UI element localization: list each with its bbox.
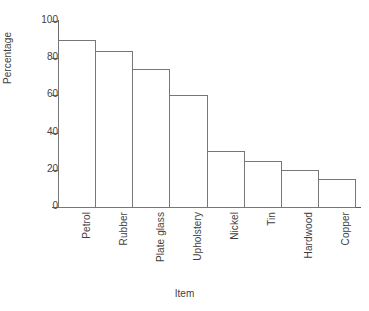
y-axis-tick-label-wrap: 60 [20,95,58,96]
bar [95,51,133,208]
y-axis-tick-label-wrap: 20 [20,170,58,171]
y-axis-title: Percentage [2,18,22,98]
bar [58,40,96,208]
bar [281,170,319,208]
bar [207,151,245,208]
bar [244,161,282,209]
x-axis-title: Item [0,288,369,299]
bar-chart-figure: Percentage 020406080100 PetrolRubberPlat… [0,0,369,311]
bar [169,95,207,208]
y-axis-tick-label: 20 [32,163,58,174]
y-axis-tick-label-wrap: 40 [20,133,58,134]
y-axis-tick-label-wrap: 0 [20,207,58,208]
y-axis-tick-label: 0 [32,200,58,211]
bar [132,69,170,208]
y-axis-tick-label-wrap: 80 [20,58,58,59]
y-axis-tick-label: 60 [32,88,58,99]
y-axis-tick-label: 100 [32,14,58,25]
bar [318,179,356,208]
y-axis-tick-label: 80 [32,51,58,62]
y-axis-tick-label-wrap: 100 [20,21,58,22]
y-axis-tick-label: 40 [32,126,58,137]
